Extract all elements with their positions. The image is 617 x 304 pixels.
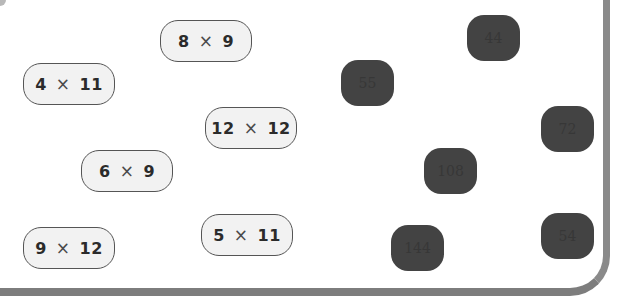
answer-value: 108 xyxy=(437,163,464,179)
answer-tile[interactable]: 72 xyxy=(541,106,594,152)
answer-tile[interactable]: 44 xyxy=(467,15,520,61)
expression-card[interactable]: 4 × 11 xyxy=(23,63,115,105)
multiply-sign: × xyxy=(56,74,71,94)
answer-value: 72 xyxy=(559,121,577,137)
answer-value: 44 xyxy=(485,30,503,46)
expression-card[interactable]: 9 × 12 xyxy=(23,227,115,269)
multiply-sign: × xyxy=(199,31,214,51)
worksheet-page: 8 × 9 4 × 11 12 × 12 6 × 9 5 × 11 9 × 12… xyxy=(0,0,617,304)
expression-operand-a: 8 xyxy=(178,32,190,51)
expression-card[interactable]: 8 × 9 xyxy=(160,20,252,62)
answer-value: 54 xyxy=(559,228,577,244)
expression-card[interactable]: 6 × 9 xyxy=(81,150,173,192)
expression-card[interactable]: 5 × 11 xyxy=(201,214,293,256)
expression-operand-a: 12 xyxy=(211,119,234,138)
expression-operand-a: 4 xyxy=(35,75,47,94)
answer-tile[interactable]: 108 xyxy=(424,148,477,194)
expression-operand-b: 11 xyxy=(258,226,281,245)
answer-value: 55 xyxy=(359,75,377,91)
answer-tile[interactable]: 54 xyxy=(541,213,594,259)
multiply-sign: × xyxy=(234,225,249,245)
expression-operand-b: 9 xyxy=(222,32,234,51)
expression-operand-a: 6 xyxy=(99,162,111,181)
answer-value: 144 xyxy=(404,240,431,256)
expression-operand-b: 12 xyxy=(267,119,290,138)
expression-card[interactable]: 12 × 12 xyxy=(205,107,297,149)
multiply-sign: × xyxy=(120,161,135,181)
expression-operand-b: 9 xyxy=(143,162,155,181)
answer-tile[interactable]: 55 xyxy=(341,60,394,106)
answer-tile[interactable]: 144 xyxy=(391,225,444,271)
expression-operand-b: 12 xyxy=(80,239,103,258)
multiply-sign: × xyxy=(56,238,71,258)
multiply-sign: × xyxy=(244,118,259,138)
expression-operand-b: 11 xyxy=(80,75,103,94)
expression-operand-a: 9 xyxy=(35,239,47,258)
expression-operand-a: 5 xyxy=(213,226,225,245)
